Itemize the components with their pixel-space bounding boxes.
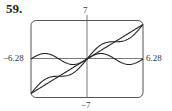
- y-min-label: −7: [81, 101, 91, 110]
- y-max-label: 7: [83, 6, 88, 15]
- x-max-label: 6.28: [146, 54, 162, 63]
- x-min-label: −6.28: [3, 54, 24, 63]
